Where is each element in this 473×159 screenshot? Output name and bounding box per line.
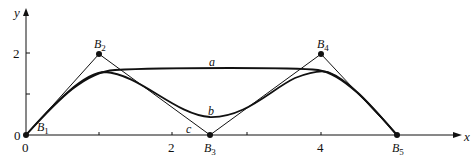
bspline-diagram: y x 2 0 0 2 4 B1 B2 B3 B4 B5 a b c: [0, 0, 473, 159]
y-tick-2: 2: [13, 46, 20, 61]
curve-c-label: c: [186, 122, 192, 136]
x-axis-arrow-icon: [453, 132, 462, 138]
curve-a: [26, 68, 397, 135]
x-axis-label: x: [463, 129, 470, 144]
label-b1: B1: [37, 120, 49, 136]
x-tick-2: 2: [168, 140, 175, 155]
curve-a-label: a: [209, 55, 215, 69]
axes: [26, 14, 455, 135]
control-point-b4: [318, 51, 324, 57]
y-tick-0: 0: [14, 128, 21, 143]
label-b2: B2: [94, 37, 106, 53]
y-axis-label: y: [12, 5, 20, 20]
label-b4: B4: [317, 37, 329, 53]
curve-b-label: b: [208, 104, 214, 118]
control-point-b5: [394, 132, 400, 138]
x-tick-0: 0: [22, 140, 29, 155]
label-b3: B3: [204, 141, 216, 157]
y-axis-arrow-icon: [23, 8, 29, 16]
label-b5: B5: [392, 141, 404, 157]
x-tick-4: 4: [317, 140, 324, 155]
control-point-b1: [23, 132, 29, 138]
control-point-b3: [207, 132, 213, 138]
